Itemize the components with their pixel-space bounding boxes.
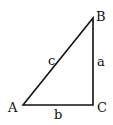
- side-label-a: a: [97, 54, 105, 69]
- triangle-abc: [23, 18, 93, 105]
- side-label-c: c: [48, 53, 55, 68]
- vertex-label-c: C: [97, 100, 107, 115]
- side-label-b: b: [54, 107, 62, 122]
- right-triangle-diagram: B a c A b C: [0, 0, 113, 125]
- vertex-label-a: A: [7, 100, 18, 115]
- vertex-label-b: B: [96, 9, 106, 24]
